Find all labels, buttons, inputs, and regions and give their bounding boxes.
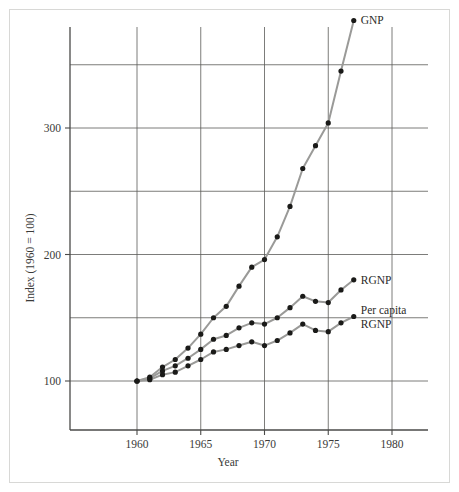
data-point-gnp-1974 <box>313 143 318 148</box>
data-point-per-capita-rgnp-1972 <box>287 330 292 335</box>
data-point-rgnp-1964 <box>185 356 190 361</box>
data-point-gnp-1963 <box>173 357 178 362</box>
data-point-gnp-1969 <box>249 265 254 270</box>
data-point-per-capita-rgnp-1964 <box>185 363 190 368</box>
series-label-per-capita-rgnp-line1: Per capita <box>361 304 407 317</box>
y-gridlines <box>70 65 428 381</box>
data-point-rgnp-1966 <box>211 337 216 342</box>
x-axis-ticks: 19601965197019751980 <box>126 430 404 450</box>
y-tick-label-200: 200 <box>44 249 62 261</box>
data-point-rgnp-1968 <box>236 325 241 330</box>
data-point-rgnp-1972 <box>287 305 292 310</box>
series-label-gnp: GNP <box>361 14 384 26</box>
figure-container: 100200300 19601965197019751980 GNPRGNPPe… <box>0 0 459 492</box>
data-point-rgnp-1971 <box>275 315 280 320</box>
data-point-per-capita-rgnp-1977 <box>351 314 356 319</box>
data-point-rgnp-1977 <box>351 277 356 282</box>
data-point-rgnp-1976 <box>338 287 343 292</box>
data-point-rgnp-1974 <box>313 299 318 304</box>
x-axis-title: Year <box>217 456 238 468</box>
data-point-gnp-1976 <box>338 68 343 73</box>
data-point-per-capita-rgnp-1973 <box>300 321 305 326</box>
data-point-per-capita-rgnp-1975 <box>326 329 331 334</box>
data-point-gnp-1971 <box>275 234 280 239</box>
data-point-per-capita-rgnp-1967 <box>224 347 229 352</box>
y-tick-label-100: 100 <box>44 375 62 387</box>
x-tick-label-1960: 1960 <box>126 438 149 450</box>
series-label-per-capita-rgnp-line2: RGNP <box>361 318 392 330</box>
data-point-per-capita-rgnp-1963 <box>173 370 178 375</box>
data-point-gnp-1970 <box>262 257 267 262</box>
data-point-gnp-1966 <box>211 315 216 320</box>
data-point-rgnp-1975 <box>326 300 331 305</box>
x-tick-label-1970: 1970 <box>253 438 276 450</box>
data-point-per-capita-rgnp-1966 <box>211 349 216 354</box>
y-tick-label-300: 300 <box>44 122 62 134</box>
axis-lines <box>70 27 428 430</box>
data-point-rgnp-1973 <box>300 294 305 299</box>
x-tick-label-1980: 1980 <box>381 438 404 450</box>
x-tick-label-1975: 1975 <box>317 438 340 450</box>
series-lines <box>137 20 354 381</box>
data-point-rgnp-1969 <box>249 320 254 325</box>
data-point-per-capita-rgnp-1960 <box>134 378 139 383</box>
data-point-per-capita-rgnp-1970 <box>262 343 267 348</box>
data-point-rgnp-1965 <box>198 347 203 352</box>
series-line-gnp <box>137 20 354 381</box>
series-markers <box>134 18 356 384</box>
data-point-rgnp-1963 <box>173 363 178 368</box>
data-point-rgnp-1970 <box>262 321 267 326</box>
series-labels: GNPRGNPPer capitaRGNP <box>361 14 407 330</box>
data-point-per-capita-rgnp-1961 <box>147 377 152 382</box>
data-point-per-capita-rgnp-1965 <box>198 357 203 362</box>
data-point-gnp-1977 <box>351 18 356 23</box>
data-point-gnp-1968 <box>236 284 241 289</box>
data-point-per-capita-rgnp-1976 <box>338 320 343 325</box>
data-point-gnp-1975 <box>326 120 331 125</box>
series-label-rgnp: RGNP <box>361 274 392 286</box>
data-point-per-capita-rgnp-1969 <box>249 339 254 344</box>
data-point-gnp-1965 <box>198 332 203 337</box>
data-point-gnp-1967 <box>224 304 229 309</box>
y-axis-ticks: 100200300 <box>44 122 70 387</box>
data-point-gnp-1964 <box>185 346 190 351</box>
data-point-rgnp-1967 <box>224 333 229 338</box>
data-point-per-capita-rgnp-1962 <box>160 372 165 377</box>
data-point-gnp-1972 <box>287 204 292 209</box>
line-chart: 100200300 19601965197019751980 GNPRGNPPe… <box>0 0 459 492</box>
data-point-per-capita-rgnp-1971 <box>275 338 280 343</box>
x-tick-label-1965: 1965 <box>189 438 212 450</box>
data-point-per-capita-rgnp-1968 <box>236 343 241 348</box>
data-point-gnp-1973 <box>300 166 305 171</box>
y-axis-title: Index (1960 = 100) <box>24 213 37 302</box>
data-point-per-capita-rgnp-1974 <box>313 328 318 333</box>
